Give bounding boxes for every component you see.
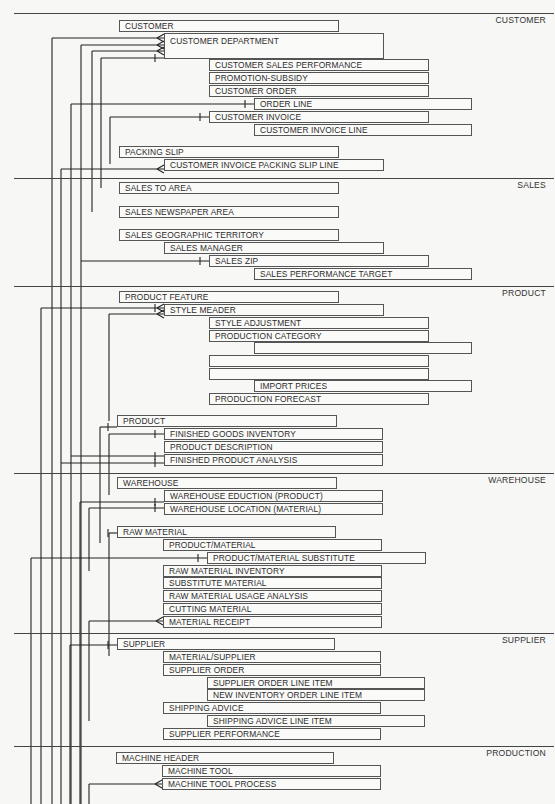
entity-box[interactable]: SHIPPING ADVICE	[163, 702, 381, 714]
entity-box[interactable]: SALES PERFORMANCE TARGET	[254, 268, 472, 280]
relationship-connector	[70, 641, 117, 804]
entity-box[interactable]	[209, 368, 429, 380]
section-divider-customer	[14, 13, 554, 14]
entity-box[interactable]: FINISHED GOODS INVENTORY	[164, 428, 383, 440]
relationship-connector	[89, 780, 162, 804]
entity-box[interactable]: MATERIAL/SUPPLIER	[163, 651, 381, 663]
entity-box[interactable]: MATERIAL RECEIPT	[163, 616, 382, 628]
entity-box[interactable]: CUSTOMER INVOICE	[209, 111, 429, 123]
entity-box[interactable]: WAREHOUSE	[117, 477, 337, 489]
entity-box[interactable]: SUPPLIER ORDER LINE ITEM	[207, 677, 425, 689]
crowfoot-icon	[157, 304, 164, 312]
section-divider-supplier	[14, 633, 554, 634]
entity-box[interactable]: MACHINE TOOL PROCESS	[162, 778, 381, 790]
entity-box[interactable]: PRODUCT/MATERIAL SUBSTITUTE	[207, 552, 426, 564]
section-label: SALES	[517, 180, 546, 190]
entity-box[interactable]: WAREHOUSE EDUCTION (PRODUCT)	[164, 490, 383, 502]
entity-box[interactable]: RAW MATERIAL INVENTORY	[163, 565, 382, 577]
crowfoot-icon	[156, 617, 163, 625]
relationship-connector	[108, 529, 117, 656]
entity-box[interactable]: SALES MANAGER	[164, 242, 384, 254]
entity-box[interactable]: STYLE ADJUSTMENT	[209, 317, 429, 329]
entity-box[interactable]: SUPPLIER	[117, 638, 335, 650]
section-label: CUSTOMER	[495, 15, 546, 25]
entity-box[interactable]: PRODUCT	[117, 415, 337, 427]
entity-box[interactable]: CUSTOMER SALES PERFORMANCE	[209, 59, 429, 71]
crowfoot-icon	[157, 165, 164, 173]
crowfoot-icon	[157, 47, 164, 55]
relationship-connector	[109, 310, 164, 421]
relationship-connector	[101, 54, 164, 188]
section-divider-production	[14, 746, 554, 747]
entity-box[interactable]: NEW INVENTORY ORDER LINE ITEM	[207, 689, 425, 701]
relationship-connector	[81, 257, 209, 265]
entity-box[interactable]: SALES TO AREA	[119, 182, 339, 194]
section-label: PRODUCTION	[486, 748, 546, 758]
entity-box[interactable]: CUSTOMER	[119, 20, 339, 32]
entity-box[interactable]: PRODUCT FEATURE	[119, 291, 339, 303]
entity-box[interactable]: SALES NEWSPAPER AREA	[119, 206, 339, 218]
entity-box[interactable]: PRODUCTION FORECAST	[209, 393, 429, 405]
entity-box[interactable]: SUPPLIER PERFORMANCE	[163, 728, 381, 740]
entity-box[interactable]: PACKING SLIP	[119, 146, 339, 158]
relationship-connector	[100, 423, 117, 543]
entity-box[interactable]: SALES GEOGRAPHIC TERRITORY	[119, 229, 339, 241]
entity-box[interactable]: FINISHED PRODUCT ANALYSIS	[164, 454, 383, 466]
entity-box[interactable]: IMPORT PRICES	[254, 380, 472, 392]
relationship-connector	[41, 304, 164, 804]
section-label: SUPPLIER	[502, 635, 546, 645]
section-label: WAREHOUSE	[488, 475, 546, 485]
entity-box[interactable]: PRODUCTION CATEGORY	[209, 330, 429, 342]
entity-box[interactable]: RAW MATERIAL USAGE ANALYSIS	[163, 590, 382, 602]
relationship-connector	[61, 459, 164, 467]
section-label: PRODUCT	[502, 288, 546, 298]
entity-box[interactable]: CUSTOMER INVOICE LINE	[254, 124, 472, 136]
section-divider-warehouse	[14, 473, 554, 474]
crowfoot-icon	[157, 41, 164, 49]
entity-box[interactable]	[254, 342, 472, 354]
entity-box[interactable]: CUTTING MATERIAL	[163, 603, 382, 615]
entity-box[interactable]: CUSTOMER INVOICE PACKING SLIP LINE	[164, 159, 384, 171]
crowfoot-icon	[157, 310, 164, 318]
entity-box[interactable]: PRODUCT DESCRIPTION	[164, 441, 383, 453]
entity-box[interactable]: RAW MATERIAL	[117, 526, 336, 538]
section-divider-product	[14, 286, 554, 287]
entity-relationship-diagram: CUSTOMERSALESPRODUCTWAREHOUSESUPPLIERPRO…	[0, 0, 555, 804]
entity-box[interactable]	[209, 355, 429, 367]
section-divider-sales	[14, 178, 554, 179]
relationship-connector	[71, 452, 164, 460]
entity-box[interactable]: STYLE MEADER	[164, 304, 384, 316]
crowfoot-icon	[157, 34, 164, 42]
entity-box[interactable]: PRODUCT/MATERIAL	[163, 539, 382, 551]
entity-box[interactable]: PROMOTION-SUBSIDY	[209, 72, 429, 84]
entity-box[interactable]: SHIPPING ADVICE LINE ITEM	[207, 715, 425, 727]
entity-box[interactable]: SUBSTITUTE MATERIAL	[163, 577, 382, 589]
entity-box[interactable]: CUSTOMER DEPARTMENT	[164, 33, 384, 59]
entity-box[interactable]: CUSTOMER ORDER	[209, 85, 429, 97]
crowfoot-icon	[155, 780, 162, 788]
entity-box[interactable]: ORDER LINE	[254, 98, 472, 110]
entity-box[interactable]: MACHINE TOOL	[162, 765, 381, 777]
entity-box[interactable]: SALES ZIP	[209, 255, 429, 267]
entity-box[interactable]: MACHINE HEADER	[116, 752, 334, 764]
entity-box[interactable]: SUPPLIER ORDER	[163, 664, 381, 676]
entity-box[interactable]: WAREHOUSE LOCATION (MATERIAL)	[164, 503, 383, 515]
